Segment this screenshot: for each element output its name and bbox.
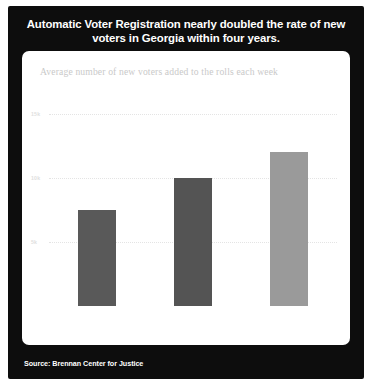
plot-area: 5k10k15k (49, 98, 337, 306)
bar-2017 (270, 152, 308, 306)
title-block: Automatic Voter Registration nearly doub… (8, 6, 364, 54)
bar-2013 (78, 210, 116, 306)
y-axis-tick-label: 10k (31, 175, 40, 181)
y-axis-tick-label: 15k (31, 111, 40, 117)
gridline (49, 114, 337, 115)
chart-figure: Automatic Voter Registration nearly doub… (8, 6, 364, 379)
bar-2015 (174, 178, 212, 306)
source-note: Source: Brennan Center for Justice (24, 359, 143, 368)
chart-card: Average number of new voters added to th… (22, 51, 350, 345)
chart-subtitle: Average number of new voters added to th… (40, 66, 330, 78)
y-axis-tick-label: 5k (31, 239, 37, 245)
page-title: Automatic Voter Registration nearly doub… (22, 17, 350, 45)
